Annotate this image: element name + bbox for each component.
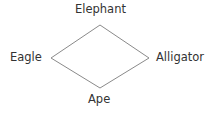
node-top-label: Elephant	[75, 3, 126, 16]
node-bottom-label: Ape	[88, 93, 110, 106]
node-left-label: Eagle	[10, 51, 42, 64]
node-right-label: Alligator	[156, 51, 204, 64]
